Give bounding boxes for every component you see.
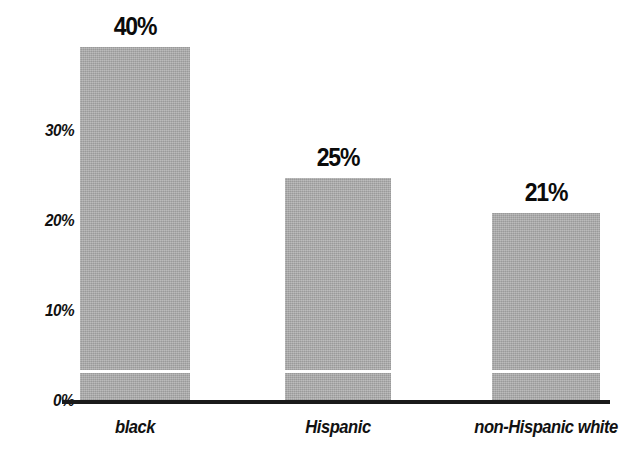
bar-value-label-black: 40%	[84, 14, 185, 39]
x-axis-line	[62, 400, 610, 404]
x-tick-label-non-hispanic-white: non-Hispanic white	[463, 418, 629, 436]
bar-value-label-non-hispanic-white: 21%	[496, 180, 595, 205]
bar-inner-rule-non-hispanic-white	[492, 370, 600, 373]
x-tick-label-hispanic: Hispanic	[283, 418, 393, 436]
bar-chart: 30% 20% 10% 0% 40% 25% 21% black Hispani…	[0, 0, 636, 453]
bar-value-label-hispanic: 25%	[289, 145, 387, 170]
bar-non-hispanic-white[interactable]	[492, 213, 600, 401]
x-tick-label-black: black	[80, 418, 190, 436]
bar-inner-rule-hispanic	[285, 370, 391, 373]
bar-hispanic[interactable]	[285, 178, 391, 401]
bar-black[interactable]	[80, 47, 190, 401]
bar-inner-rule-black	[80, 370, 190, 373]
plot-area: 40% 25% 21% black Hispanic non-Hispanic …	[0, 0, 636, 453]
